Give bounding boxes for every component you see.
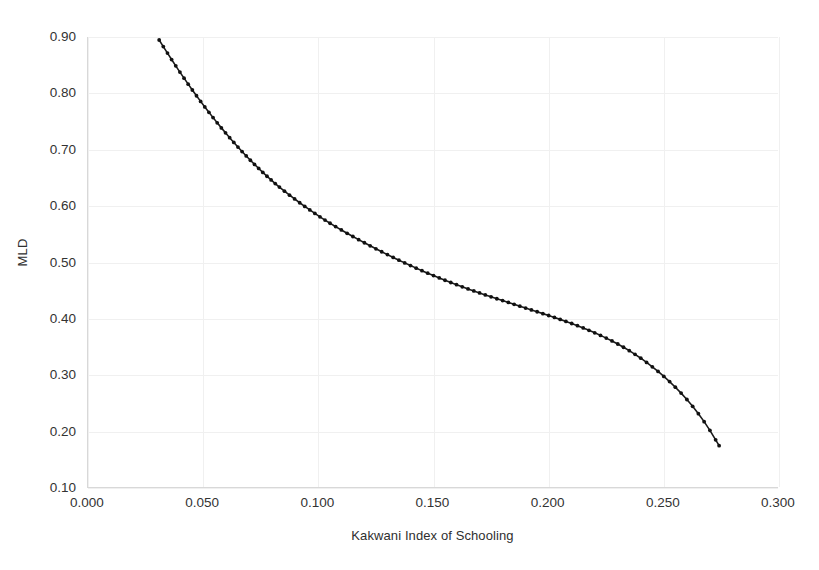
data-point-marker [273,182,277,186]
y-tick-label: 0.20 [16,425,76,439]
data-point-marker [339,228,343,232]
data-point-marker [308,208,312,212]
data-point-marker [466,287,470,291]
data-point-marker [190,88,194,92]
data-point-marker [195,94,199,98]
data-point-marker [170,58,174,62]
data-point-marker [178,70,182,74]
data-point-marker [224,131,228,135]
data-point-marker [627,349,631,353]
data-point-marker [403,261,407,265]
x-tick-label: 0.300 [738,496,818,510]
data-point-marker [157,38,161,42]
data-point-marker [283,189,287,193]
y-tick-label: 0.60 [16,199,76,213]
data-point-marker [478,291,482,295]
data-point-marker [717,444,721,448]
data-point-marker [298,201,302,205]
data-point-marker [691,404,695,408]
data-point-marker [257,167,261,171]
data-point-marker [506,301,510,305]
data-point-marker [236,145,240,149]
y-tick-label: 0.10 [16,481,76,495]
data-point-marker [248,158,252,162]
data-point-marker [610,339,614,343]
x-tick-label: 0.000 [47,496,127,510]
data-point-marker [293,197,297,201]
data-point-marker [265,174,269,178]
data-point-marker [261,171,265,175]
data-point-marker [535,310,539,314]
data-point-marker [351,235,355,239]
data-point-marker [211,116,215,120]
y-tick-label: 0.70 [16,143,76,157]
data-point-marker [374,247,378,251]
data-point-marker [460,285,464,289]
y-tick-label: 0.90 [16,30,76,44]
y-tick-label: 0.50 [16,256,76,270]
data-point-marker [391,256,395,260]
y-tick-label: 0.80 [16,86,76,100]
data-point-marker [512,302,516,306]
data-point-marker [593,331,597,335]
data-point-marker [437,276,441,280]
data-point-marker [232,141,236,145]
data-point-marker [345,231,349,235]
data-point-marker [303,205,307,209]
data-point-marker [553,316,557,320]
data-point-marker [161,45,165,49]
data-point-marker [174,64,178,68]
plot-area [87,37,778,488]
data-point-marker [483,293,487,297]
data-point-marker [673,385,677,389]
data-point-marker [166,51,170,55]
data-point-marker [288,193,292,197]
data-point-marker [432,274,436,278]
data-point-marker [228,136,232,140]
data-point-marker [328,221,332,225]
series-markers [157,38,721,448]
data-point-marker [455,283,459,287]
data-point-marker [472,289,476,293]
data-point-marker [278,185,282,189]
data-point-marker [708,428,712,432]
data-point-marker [323,218,327,222]
data-point-marker [363,241,367,245]
data-point-marker [581,326,585,330]
data-point-marker [599,333,603,337]
y-tick-label: 0.40 [16,312,76,326]
x-axis-title: Kakwani Index of Schooling [87,528,778,543]
data-point-marker [604,336,608,340]
data-point-marker [518,304,522,308]
data-point-marker [656,370,660,374]
data-point-marker [558,317,562,321]
data-point-marker [397,258,401,262]
data-point-marker [414,266,418,270]
x-tick-label: 0.150 [393,496,473,510]
gridline-vertical [779,37,780,487]
data-point-marker [541,312,545,316]
data-series-line [88,37,779,488]
y-tick-label: 0.30 [16,368,76,382]
data-point-marker [357,238,361,242]
data-point-marker [489,295,493,299]
data-point-marker [524,306,528,310]
data-point-marker [269,178,273,182]
data-point-marker [207,110,211,114]
data-point-marker [702,420,706,424]
data-point-marker [587,328,591,332]
data-point-marker [334,225,338,229]
data-point-marker [650,365,654,369]
data-point-marker [570,322,574,326]
data-point-marker [426,271,430,275]
x-tick-label: 0.250 [623,496,703,510]
data-point-marker [386,253,390,257]
data-point-marker [616,342,620,346]
data-point-marker [186,82,190,86]
data-point-marker [318,215,322,219]
data-point-marker [380,250,384,254]
data-point-marker [443,278,447,282]
data-point-marker [714,438,718,442]
data-point-marker [199,99,203,103]
data-point-marker [639,356,643,360]
